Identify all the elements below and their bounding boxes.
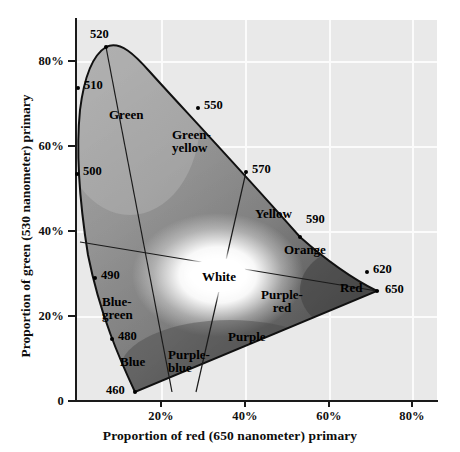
y-tick-label: 80% — [38, 54, 64, 69]
gamut-graphic — [0, 0, 460, 452]
x-tick-mark — [244, 400, 246, 407]
wavelength-500-dot — [75, 172, 79, 176]
y-tick-mark — [68, 230, 75, 232]
y-tick-label: 20% — [38, 309, 64, 324]
wavelength-590-label: 590 — [306, 212, 325, 227]
wavelength-480-dot — [110, 337, 114, 341]
wavelength-650-dot — [375, 289, 379, 293]
wavelength-650-label: 650 — [385, 282, 404, 297]
region-blue: Blue — [120, 355, 145, 368]
x-tick-mark — [328, 400, 330, 407]
y-tick-mark — [68, 145, 75, 147]
x-axis-line — [75, 400, 438, 402]
x-tick-mark — [411, 400, 413, 407]
region-blue-green: Blue-green — [102, 295, 133, 322]
x-tick-mark — [160, 400, 162, 407]
wavelength-620-label: 620 — [373, 262, 392, 277]
wavelength-570-label: 570 — [252, 162, 271, 177]
wavelength-460-label: 460 — [106, 383, 125, 398]
y-tick-label: 40% — [38, 224, 64, 239]
wavelength-520-label: 520 — [90, 27, 109, 42]
region-purple-blue: Purple-blue — [168, 348, 210, 375]
region-purple-red: Purple-red — [261, 288, 303, 315]
wavelength-480-label: 480 — [118, 329, 137, 344]
wavelength-510-label: 510 — [84, 78, 103, 93]
wavelength-490-label: 490 — [101, 268, 120, 283]
y-tick-label: 60% — [38, 139, 64, 154]
region-white: White — [202, 270, 236, 283]
wavelength-590-dot — [298, 235, 302, 239]
wavelength-570-dot — [244, 170, 248, 174]
x-tick-label: 80% — [399, 409, 425, 424]
x-tick-label: 60% — [316, 409, 342, 424]
wavelength-490-dot — [93, 276, 97, 280]
region-green-yellow: Green-yellow — [172, 128, 211, 155]
y-tick-mark — [68, 400, 75, 402]
wavelength-520-dot — [104, 45, 108, 49]
region-red: Red — [340, 281, 362, 294]
region-yellow: Yellow — [255, 207, 292, 220]
y-tick-label: 0 — [58, 394, 64, 409]
y-tick-mark — [68, 315, 75, 317]
chromaticity-diagram-figure: 80%60%40%20%0 20%40%60%80% 5205105004904… — [0, 0, 460, 452]
region-orange: Orange — [284, 243, 326, 256]
wavelength-620-dot — [365, 270, 369, 274]
wavelength-500-label: 500 — [83, 164, 102, 179]
x-axis-title: Proportion of red (650 nanometer) primar… — [0, 428, 460, 444]
region-purple: Purple — [228, 330, 266, 343]
wavelength-510-dot — [76, 86, 80, 90]
x-tick-label: 20% — [148, 409, 174, 424]
wavelength-550-dot — [196, 106, 200, 110]
x-tick-label: 40% — [232, 409, 258, 424]
region-green: Green — [109, 108, 143, 121]
y-tick-mark — [68, 60, 75, 62]
y-axis-title: Proportion of green (530 nanometer) prim… — [18, 0, 34, 452]
wavelength-460-dot — [133, 390, 137, 394]
wavelength-550-label: 550 — [204, 98, 223, 113]
y-axis-line — [75, 18, 77, 402]
